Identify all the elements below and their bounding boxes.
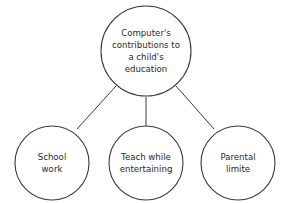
concept-diagram: Computer's contributions to a child's ed… [0, 0, 289, 203]
child-node-teach-while-entertaining: Teach while entertaining [109, 126, 183, 200]
school-work-label-line-1: School [38, 152, 67, 162]
child-node-parental-limits: Parental limite [201, 126, 275, 200]
edge-root-to-school-work [77, 86, 116, 129]
child-node-school-work: School work [15, 126, 89, 200]
root-label-line-2: contributions to [112, 40, 180, 50]
root-label-line-1: Computer's [121, 28, 171, 38]
parental-limits-circle [201, 126, 275, 200]
parental-label-line-2: limite [226, 164, 250, 174]
root-label-line-4: education [125, 64, 168, 74]
root-circle [101, 6, 191, 96]
teach-label-line-2: entertaining [120, 164, 173, 174]
school-work-label-line-2: work [42, 164, 63, 174]
edge-root-to-parental-limits [176, 86, 214, 129]
root-label-line-3: a child's [128, 52, 164, 62]
teach-while-entertaining-circle [109, 126, 183, 200]
root-node: Computer's contributions to a child's ed… [101, 6, 191, 96]
parental-label-line-1: Parental [220, 152, 255, 162]
school-work-circle [15, 126, 89, 200]
teach-label-line-1: Teach while [120, 152, 171, 162]
